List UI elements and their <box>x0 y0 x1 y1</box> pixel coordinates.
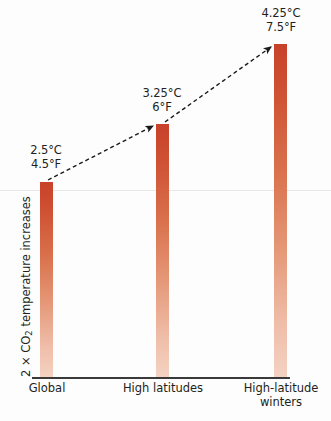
bar-high-latitude-winters <box>274 44 287 377</box>
x-axis-line <box>32 377 290 379</box>
value-label-global: 2.5°C 4.5°F <box>6 143 86 171</box>
y-axis-title: 2 × CO2 temperature increases <box>20 196 34 377</box>
value-label-high-latitude-winters: 4.25°C 7.5°F <box>241 6 321 34</box>
category-label-high-latitude-winters-line2: winters <box>231 395 331 409</box>
value-label-high-latitude-winters-fahrenheit: 7.5°F <box>266 20 296 34</box>
category-label-global: Global <box>7 381 87 395</box>
value-label-high-latitudes-fahrenheit: 6°F <box>152 100 171 114</box>
value-label-high-latitudes-celsius: 3.25°C <box>143 86 182 100</box>
category-label-high-latitudes-line1: High latitudes <box>123 381 203 395</box>
y-axis-title-suffix: temperature increases <box>19 196 33 330</box>
value-label-high-latitude-winters-celsius: 4.25°C <box>262 6 301 20</box>
y-axis-title-subscript: 2 <box>24 330 34 335</box>
value-label-high-latitudes: 3.25°C 6°F <box>122 86 202 114</box>
y-axis-title-prefix: 2 × CO <box>19 336 33 377</box>
category-label-high-latitude-winters-line1: High-latitude <box>244 381 319 395</box>
bar-global <box>40 182 53 377</box>
temperature-increase-bar-chart: 2.5°C 4.5°F 3.25°C 6°F 4.25°C 7.5°F Glob… <box>0 0 331 421</box>
category-label-high-latitude-winters: High-latitude winters <box>231 381 331 409</box>
category-label-high-latitudes: High latitudes <box>113 381 213 395</box>
bar-high-latitudes <box>156 124 169 377</box>
category-label-global-line1: Global <box>29 381 66 395</box>
value-label-global-fahrenheit: 4.5°F <box>31 157 61 171</box>
value-label-global-celsius: 2.5°C <box>30 143 62 157</box>
